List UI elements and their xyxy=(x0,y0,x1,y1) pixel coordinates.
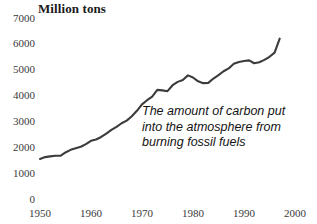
co2-emissions-line-chart: Million tons 700060005000400030002000100… xyxy=(0,0,317,224)
annotation-line-1: The amount of carbon put xyxy=(142,104,310,120)
chart-annotation: The amount of carbon put into the atmosp… xyxy=(142,104,310,151)
annotation-line-3: burning fossil fuels xyxy=(142,135,310,151)
annotation-line-2: into the atmosphere from xyxy=(142,120,310,136)
